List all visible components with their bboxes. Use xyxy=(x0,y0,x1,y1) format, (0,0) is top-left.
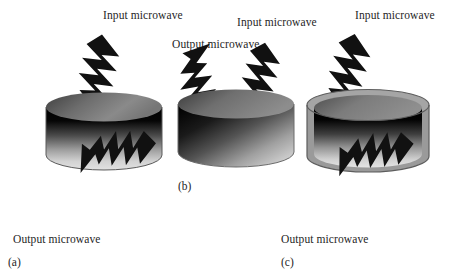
cylinder-sample-c xyxy=(305,90,433,186)
input-microwave-label-c: Input microwave xyxy=(355,9,435,22)
panel-letter-a: (a) xyxy=(8,256,21,268)
output-microwave-label-b: Output microwave xyxy=(172,38,260,51)
microwave-absorption-figure: Input microwave xyxy=(0,0,453,280)
output-microwave-label-a: Output microwave xyxy=(13,233,101,246)
panel-letter-b: (b) xyxy=(178,180,191,192)
output-microwave-arrow-c xyxy=(317,178,412,268)
cylinder-sample-b xyxy=(176,90,296,182)
input-microwave-label-b: Input microwave xyxy=(237,16,317,29)
output-microwave-arrow-a xyxy=(58,176,153,266)
panel-letter-c: (c) xyxy=(281,256,294,268)
output-microwave-label-c: Output microwave xyxy=(281,233,369,246)
input-microwave-label-a: Input microwave xyxy=(103,9,183,22)
